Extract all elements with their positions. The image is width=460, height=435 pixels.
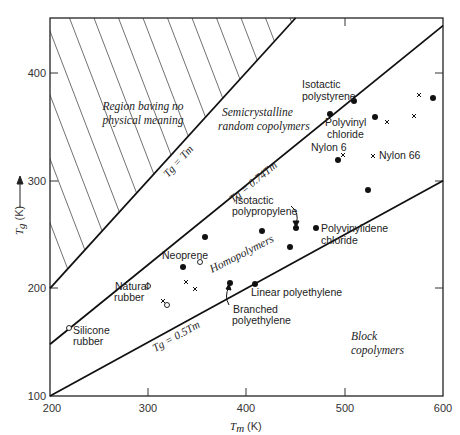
chart: 200 300 400 500 600 100 200 300 400 Tm(K… (0, 0, 460, 435)
x-axis-title: Tm(K) (230, 420, 262, 434)
x-axis-subscript: m (236, 422, 244, 434)
y-tick-100: 100 (28, 390, 46, 402)
block-label-line2: copolymers (351, 344, 405, 357)
region-label-line2: physical meaning (102, 114, 184, 127)
x-tick-400: 400 (237, 402, 255, 414)
label-branched-polyethylene-2: polyethylene (232, 314, 291, 326)
label-isotactic-polystyrene-2: polystyrene (302, 90, 356, 102)
x-tick-300: 300 (139, 402, 157, 414)
y-axis-title: Tg(K) (13, 206, 27, 235)
semicrystalline-label-line2: random copolymers (218, 120, 310, 133)
y-tick-400: 400 (28, 67, 46, 79)
homopolymers-label: Homopolymers (207, 232, 277, 276)
svg-text:Tm(K): Tm(K) (230, 420, 262, 434)
label-linear-polyethylene: Linear polyethylene (251, 286, 342, 298)
label-pvc-2: chloride (327, 128, 364, 140)
label-neoprene: Neoprene (162, 249, 208, 261)
semicrystalline-label-line1: Semicrystalline (222, 106, 293, 119)
y-tick-200: 200 (28, 282, 46, 294)
x-tick-600: 600 (434, 402, 452, 414)
y-axis-unit: (K) (13, 206, 25, 221)
region-label-line1: Region baving no (101, 100, 183, 113)
y-tick-labels: 100 200 300 400 (28, 67, 46, 402)
label-isotactic-polystyrene-1: Isotactic (302, 78, 341, 90)
label-nylon6: Nylon 6 (311, 141, 347, 153)
label-silicone-rubber-2: rubber (73, 335, 104, 347)
label-pvdc-2: chloride (321, 234, 358, 246)
y-tick-300: 300 (28, 175, 46, 187)
svg-text:Tg(K): Tg(K) (13, 206, 27, 235)
branched-pe-arrow-icon (226, 284, 231, 305)
label-nylon66: Nylon 66 (379, 149, 421, 161)
x-tick-labels: 200 300 400 500 600 (43, 402, 452, 414)
label-ipp-2: polypropylene (232, 205, 298, 217)
label-pvc-1: Polyvinyl (325, 116, 366, 128)
block-label-line1: Block (351, 330, 378, 342)
label-pvdc-1: Polyvinylidene (321, 222, 388, 234)
label-natural-rubber-2: rubber (114, 291, 145, 303)
y-axis-arrow-icon (17, 176, 23, 208)
x-axis-unit: (K) (247, 420, 262, 432)
x-tick-200: 200 (43, 402, 61, 414)
label-tg-05-tm: Tg = 0.5Tm (150, 318, 202, 354)
hatch-region (0, 18, 405, 318)
y-axis-subscript: g (15, 223, 27, 229)
x-tick-500: 500 (336, 402, 354, 414)
